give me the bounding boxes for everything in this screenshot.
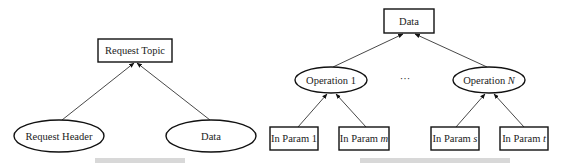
node-request-topic: Request Topic <box>98 39 172 62</box>
node-request-header: Request Header <box>14 120 104 152</box>
left-caption <box>95 158 185 163</box>
edge-param1-to-op1 <box>298 94 327 127</box>
node-in-param-m: In Param m <box>339 127 389 150</box>
edge-op1-to-data <box>333 34 403 67</box>
node-in-param-t-label: In Param t <box>502 133 547 144</box>
node-data-left-label: Data <box>201 131 221 142</box>
edge-paramt-to-opN <box>494 94 524 127</box>
right-diagram: Data Operation 1 ··· Operation N In Para… <box>270 9 548 163</box>
node-in-param-m-label: In Param m <box>340 133 389 144</box>
edge-request-header-to-topic <box>62 63 134 120</box>
node-request-topic-label: Request Topic <box>105 45 165 56</box>
node-operation-1: Operation 1 <box>295 67 367 93</box>
node-operation-n-label: Operation N <box>463 75 516 86</box>
node-data-root: Data <box>384 9 434 33</box>
ellipsis-text: ··· <box>400 73 411 84</box>
node-operation-n: Operation N <box>453 67 525 93</box>
edge-paramm-to-op1 <box>336 94 366 127</box>
edge-data-to-topic <box>137 63 210 120</box>
node-in-param-t: In Param t <box>500 127 548 150</box>
node-data-left: Data <box>166 120 256 152</box>
right-caption <box>360 158 510 163</box>
node-in-param-s: In Param s <box>431 127 479 150</box>
edge-opN-to-data <box>415 34 487 67</box>
node-in-param-s-label: In Param s <box>433 133 478 144</box>
node-in-param-1-label: In Param 1 <box>271 133 317 144</box>
node-operation-1-label: Operation 1 <box>306 75 356 86</box>
diagram-canvas: Request Topic Request Header Data Data O… <box>0 0 561 165</box>
node-data-root-label: Data <box>399 16 419 27</box>
node-in-param-1: In Param 1 <box>270 127 318 150</box>
node-request-header-label: Request Header <box>26 131 93 142</box>
left-diagram: Request Topic Request Header Data <box>14 39 256 163</box>
edge-params-to-opN <box>456 94 485 127</box>
